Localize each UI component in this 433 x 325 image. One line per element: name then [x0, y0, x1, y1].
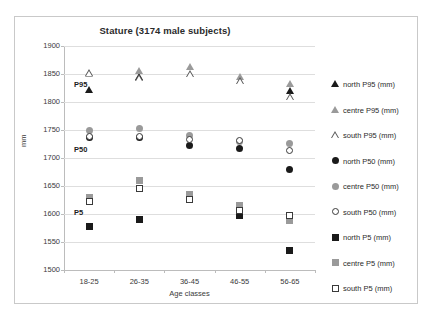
y-tick-mark [61, 74, 64, 75]
legend-marker-icon [331, 106, 340, 115]
data-point [86, 133, 93, 140]
chart-title: Stature (3174 male subjects) [15, 25, 315, 36]
data-point [286, 247, 293, 254]
data-point [135, 74, 143, 81]
x-tick-label: 26-35 [112, 277, 166, 286]
x-tick-mark [114, 270, 115, 273]
data-point [286, 140, 293, 147]
y-tick-label: 1750 [30, 126, 60, 134]
legend-marker-icon [331, 208, 340, 217]
data-point [286, 166, 293, 173]
y-tick-label: 1900 [30, 42, 60, 50]
legend-item[interactable]: south P95 (mm) [331, 123, 427, 149]
data-point [136, 185, 143, 192]
data-point [186, 142, 193, 149]
data-point [286, 147, 293, 154]
y-tick-label: 1600 [30, 210, 60, 218]
plot-area: 150015501600165017001750180018501900 18-… [64, 46, 315, 270]
data-point [286, 80, 294, 87]
y-tick-mark [61, 186, 64, 187]
data-point [236, 145, 243, 152]
legend-item[interactable]: centre P5 (mm) [331, 251, 427, 277]
legend-marker-icon [331, 157, 340, 166]
gridline [64, 102, 315, 103]
x-tick-label: 36-45 [163, 277, 217, 286]
y-tick-mark [61, 46, 64, 47]
gridline [64, 214, 315, 215]
data-point [186, 196, 193, 203]
x-tick-label: 18-25 [62, 277, 116, 286]
gridline [64, 242, 315, 243]
y-tick-label: 1500 [30, 266, 60, 274]
legend-marker-icon [331, 284, 340, 293]
legend-label: south P95 (mm) [343, 131, 396, 140]
data-point [85, 86, 93, 93]
y-tick-mark [61, 242, 64, 243]
chart-legend: north P95 (mm)centre P95 (mm)south P95 (… [331, 72, 427, 302]
legend-marker-icon [331, 259, 340, 268]
legend-item[interactable]: north P5 (mm) [331, 225, 427, 251]
legend-item[interactable]: south P50 (mm) [331, 200, 427, 226]
data-point [236, 207, 243, 214]
data-point [86, 223, 93, 230]
x-axis-line [64, 270, 315, 271]
legend-marker-icon [331, 233, 340, 242]
legend-item[interactable]: centre P50 (mm) [331, 174, 427, 200]
x-tick-mark [164, 270, 165, 273]
legend-marker-icon [331, 182, 340, 191]
legend-label: south P50 (mm) [343, 208, 396, 217]
legend-label: centre P95 (mm) [343, 106, 399, 115]
y-tick-label: 1700 [30, 154, 60, 162]
x-axis-title: Age classes [64, 289, 315, 298]
y-tick-mark [61, 102, 64, 103]
legend-item[interactable]: south P5 (mm) [331, 276, 427, 302]
y-tick-label: 1800 [30, 98, 60, 106]
data-point [86, 198, 93, 205]
legend-item[interactable]: north P50 (mm) [331, 149, 427, 175]
data-point [136, 125, 143, 132]
legend-item[interactable]: north P95 (mm) [331, 72, 427, 98]
x-tick-mark [315, 270, 316, 273]
y-tick-label: 1650 [30, 182, 60, 190]
data-point [85, 69, 93, 76]
legend-label: north P5 (mm) [343, 233, 391, 242]
x-tick-mark [265, 270, 266, 273]
legend-marker-icon [331, 131, 340, 140]
legend-label: centre P50 (mm) [343, 182, 399, 191]
data-point [286, 93, 294, 100]
y-tick-mark [61, 130, 64, 131]
y-tick-label: 1550 [30, 238, 60, 246]
y-tick-mark [61, 214, 64, 215]
data-point [286, 212, 293, 219]
x-tick-label: 46-55 [213, 277, 267, 286]
x-tick-label: 56-65 [263, 277, 317, 286]
data-point [136, 216, 143, 223]
data-point [186, 70, 194, 77]
x-tick-mark [64, 270, 65, 273]
gridline [64, 130, 315, 131]
y-tick-mark [61, 158, 64, 159]
percentile-annotation: P5 [74, 208, 83, 217]
legend-label: south P5 (mm) [343, 284, 392, 293]
data-point [136, 177, 143, 184]
x-tick-mark [215, 270, 216, 273]
legend-label: north P95 (mm) [343, 80, 395, 89]
data-point [186, 136, 193, 143]
data-point [236, 77, 244, 84]
chart-container: Stature (3174 male subjects) mm Age clas… [14, 16, 418, 304]
legend-label: centre P5 (mm) [343, 259, 395, 268]
gridline [64, 186, 315, 187]
y-axis-title: mm [19, 135, 28, 148]
legend-item[interactable]: centre P95 (mm) [331, 98, 427, 124]
legend-label: north P50 (mm) [343, 157, 395, 166]
gridline [64, 158, 315, 159]
y-tick-label: 1850 [30, 70, 60, 78]
gridline [64, 46, 315, 47]
legend-marker-icon [331, 80, 340, 89]
percentile-annotation: P50 [74, 145, 87, 154]
data-point [136, 133, 143, 140]
